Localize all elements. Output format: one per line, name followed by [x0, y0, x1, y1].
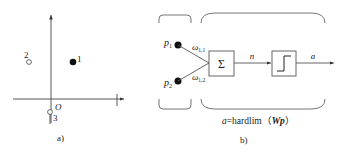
input-label-p2: p2 [163, 77, 172, 89]
input-label-p1: p1 [163, 37, 172, 49]
transfer-formula: a=hardlim（Wp） [222, 115, 295, 126]
point-1-filled [70, 59, 77, 66]
figure-canvas: 1 2 3 O a) p1 p2 ω1,1 ω1,2 Σ n [0, 0, 344, 156]
weight-label-w11: ω1,1 [192, 42, 205, 53]
point-1-label: 1 [77, 54, 82, 64]
panel-a-plot: 1 2 3 O a) [13, 15, 124, 143]
output-label: a [311, 51, 316, 61]
panel-b-diagram: p1 p2 ω1,1 ω1,2 Σ n a a=hardlim（Wp） b) [159, 13, 334, 145]
point-3-hollow [48, 110, 53, 115]
point-2-hollow [27, 60, 32, 65]
point-2-label: 2 [24, 50, 29, 60]
origin-label: O [55, 102, 62, 112]
weight-label-w12: ω1,2 [192, 72, 205, 83]
sum-symbol-icon: Σ [218, 57, 225, 71]
input-bracket-bottom [159, 99, 191, 109]
neuron-bracket-bottom [201, 99, 325, 109]
net-input-label: n [250, 51, 255, 61]
point-3-label: 3 [53, 113, 58, 123]
caption-b: b) [240, 135, 248, 145]
neuron-bracket-top [201, 13, 325, 23]
caption-a: a) [57, 133, 64, 143]
input-bracket-top [159, 15, 191, 23]
